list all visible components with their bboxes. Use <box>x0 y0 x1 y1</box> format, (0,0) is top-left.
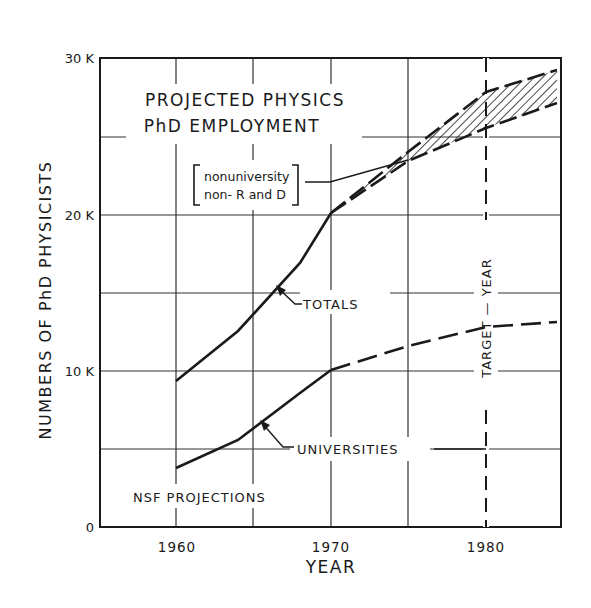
universities-projected-line <box>331 322 557 370</box>
x-axis-title: YEAR <box>305 557 357 577</box>
y-axis-title: NUMBERS OF PhD PHYSICISTS <box>36 161 55 440</box>
y-tick-10k: 10 K <box>65 364 95 379</box>
x-tick-1960: 1960 <box>158 539 196 555</box>
y-tick-30k: 30 K <box>65 51 95 66</box>
totals-label: TOTALS <box>302 297 359 312</box>
chart-title: PROJECTED PHYSICS <box>145 90 345 110</box>
x-tick-1980: 1980 <box>467 539 505 555</box>
chart: PROJECTED PHYSICS PhD EMPLOYMENT nonuniv… <box>0 0 591 608</box>
y-tick-20k: 20 K <box>65 208 95 223</box>
universities-label: UNIVERSITIES <box>297 442 399 457</box>
target-year-label: TARGET — YEAR <box>479 258 494 378</box>
y-tick-0: 0 <box>86 520 94 535</box>
bracket-label-1: nonuniversity <box>204 169 290 184</box>
x-tick-1970: 1970 <box>312 539 350 555</box>
bracket-label-2: non- R and D <box>204 187 286 202</box>
chart-subtitle: PhD EMPLOYMENT <box>144 116 320 136</box>
nsf-projections-label: NSF PROJECTIONS <box>133 490 266 505</box>
